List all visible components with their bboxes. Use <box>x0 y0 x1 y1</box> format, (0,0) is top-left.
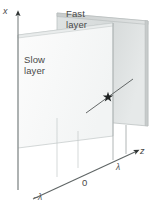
z-axis-label: z <box>140 146 145 156</box>
fast-layer-label-line1: Fast <box>66 8 85 19</box>
slow-layer-label-line1: Slow <box>24 54 45 65</box>
z-axis <box>33 151 137 199</box>
tick-label-lambda: λ <box>116 163 120 173</box>
slow-layer-face <box>18 23 113 148</box>
fast-layer-label: Fastlayer <box>66 9 87 30</box>
fast-layer-label-line2: layer <box>66 19 87 30</box>
slow-layer-label-line2: layer <box>24 65 45 76</box>
slow-layer-label: Slowlayer <box>24 55 45 76</box>
diagram-svg <box>0 0 158 214</box>
tick-label-minus-lambda: −λ <box>33 193 42 203</box>
x-axis-label: x <box>3 6 8 16</box>
slow-layer-plane <box>18 23 113 148</box>
figure-canvas: Fastlayer Slowlayer x z −λ 0 λ <box>0 0 158 214</box>
fast-layer-side-edge <box>145 21 148 126</box>
tick-label-zero: 0 <box>82 178 87 189</box>
z-axis-line <box>33 151 137 199</box>
